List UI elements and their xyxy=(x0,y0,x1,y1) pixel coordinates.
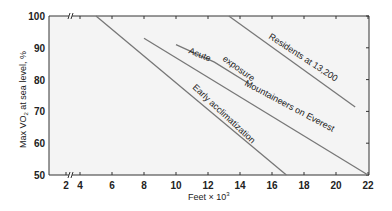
x-tick-label: 2 xyxy=(63,180,69,191)
x-tick-label: 18 xyxy=(298,180,310,191)
x-axis-title: Feet × 103 xyxy=(188,191,230,202)
x-tick-label: 22 xyxy=(362,180,374,191)
y-tick-label: 50 xyxy=(34,170,46,181)
x-tick-label: 6 xyxy=(109,180,115,191)
x-tick-label: 12 xyxy=(202,180,214,191)
x-tick-label: 10 xyxy=(170,180,182,191)
y-tick-label: 70 xyxy=(34,106,46,117)
x-tick-label: 4 xyxy=(77,180,83,191)
x-tick-label: 20 xyxy=(330,180,342,191)
chart: 2468101214161820225060708090100 Acute ex… xyxy=(0,0,392,211)
y-tick-label: 60 xyxy=(34,138,46,149)
y-tick-label: 90 xyxy=(34,43,46,54)
x-tick-label: 14 xyxy=(234,180,246,191)
y-axis-title: Max VO2 at sea level, % xyxy=(18,51,29,148)
x-tick-label: 16 xyxy=(266,180,278,191)
x-tick-label: 8 xyxy=(141,180,147,191)
y-tick-label: 80 xyxy=(34,75,46,86)
y-tick-label: 100 xyxy=(28,11,45,22)
